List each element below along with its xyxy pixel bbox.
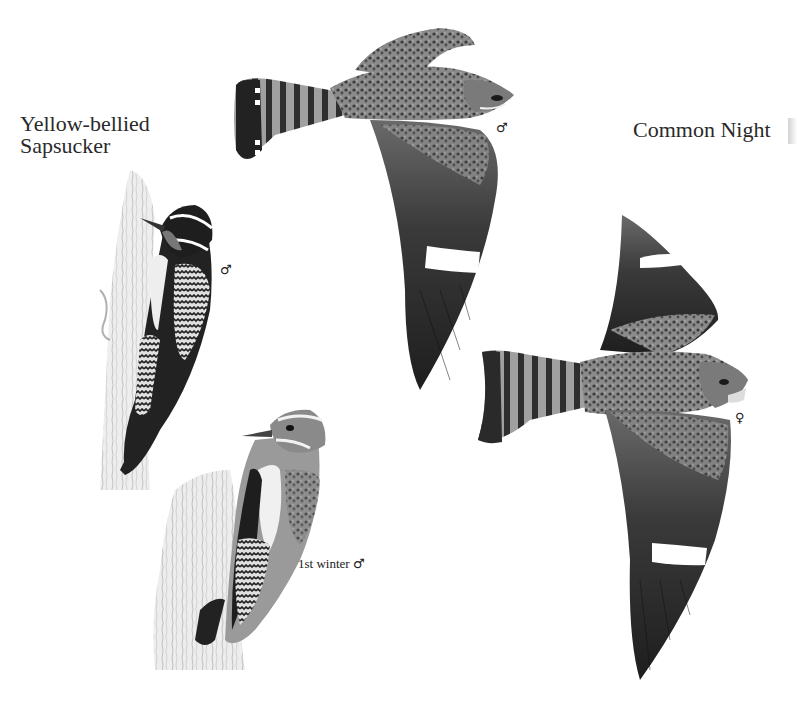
field-guide-plate: Yellow-bellied Sapsucker Common Night ♂ … (0, 0, 797, 704)
female-symbol-nighthawk: ♀ (735, 410, 745, 425)
sapsucker-1st-winter-figure (153, 410, 325, 670)
male-symbol-sapsucker: ♂ (220, 262, 232, 277)
sapsucker-title: Yellow-bellied Sapsucker (20, 113, 150, 157)
first-winter-label: 1st winter ♂ (298, 556, 365, 572)
nighthawk-title: Common Night (633, 119, 771, 141)
sapsucker-title-line-2: Sapsucker (20, 135, 150, 157)
nighthawk-female-figure (478, 215, 748, 680)
nighthawk-male-figure (234, 28, 514, 390)
sapsucker-male-figure (100, 170, 212, 490)
bird-illustrations (0, 0, 797, 704)
male-symbol-first-winter: ♂ (353, 556, 365, 571)
page-edge-shadow (788, 118, 797, 144)
sapsucker-title-line-1: Yellow-bellied (20, 113, 150, 135)
first-winter-text: 1st winter (298, 556, 350, 571)
male-symbol-nighthawk: ♂ (496, 120, 508, 135)
